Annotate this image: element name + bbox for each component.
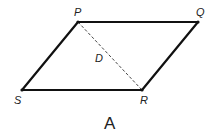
label-q: Q bbox=[196, 6, 205, 18]
diagonal-pr bbox=[78, 22, 142, 90]
vertex-p-dot bbox=[76, 20, 79, 23]
vertex-r-dot bbox=[140, 88, 143, 91]
parallelogram-diagram: P Q R S D A bbox=[0, 0, 213, 140]
figure-caption: A bbox=[104, 114, 116, 133]
label-s: S bbox=[14, 94, 22, 106]
label-r: R bbox=[140, 94, 148, 106]
vertex-q-dot bbox=[196, 20, 199, 23]
label-d: D bbox=[95, 52, 103, 64]
vertex-s-dot bbox=[20, 88, 23, 91]
label-p: P bbox=[74, 6, 82, 18]
